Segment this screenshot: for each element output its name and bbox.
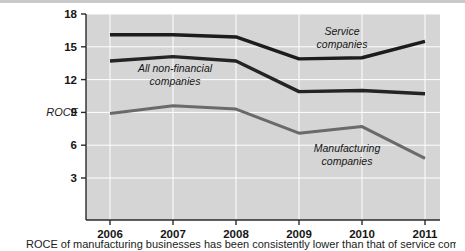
ytick-label-3: 3 <box>71 172 77 184</box>
ytick-label-15: 15 <box>64 41 77 53</box>
annotation-all-non-financial-line2: companies <box>150 75 202 87</box>
ytick-label-6: 6 <box>71 139 77 151</box>
annotation-all-non-financial-line1: All non-financial <box>137 62 213 74</box>
ytick-label-12: 12 <box>64 74 77 86</box>
annotation-manufacturing-line1: Manufacturing <box>314 142 381 154</box>
y-axis-title: ROCE <box>46 106 78 118</box>
ytick-label-18: 18 <box>64 8 77 20</box>
y-axis-tick-marks <box>81 14 86 178</box>
figure-caption: ROCE of manufacturing businesses has bee… <box>26 238 456 251</box>
y-axis-tick-labels: 369121518 <box>64 8 77 184</box>
annotation-manufacturing-line2: companies <box>322 155 374 167</box>
annotation-service-line1: Service <box>324 25 359 37</box>
annotation-service-line2: companies <box>317 38 369 50</box>
x-axis-tick-marks <box>110 220 425 225</box>
